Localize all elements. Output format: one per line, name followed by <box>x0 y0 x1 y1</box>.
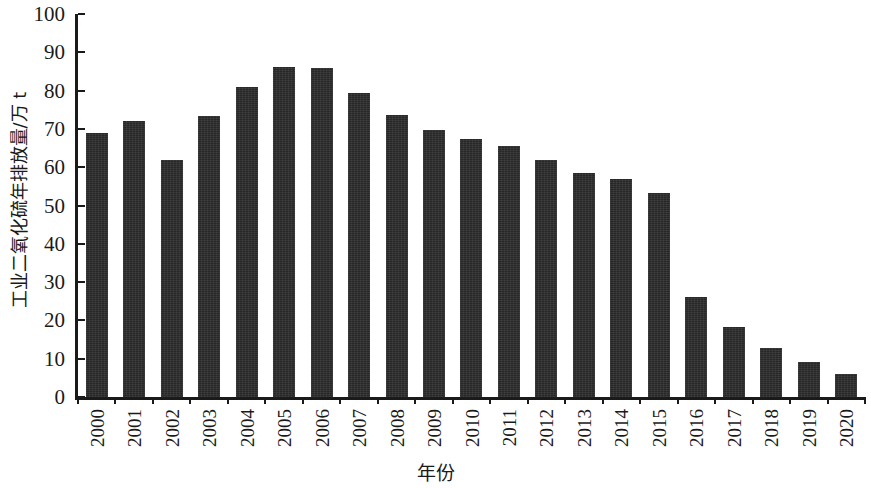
bar[interactable] <box>685 297 707 397</box>
bar[interactable] <box>198 116 220 397</box>
x-axis-tick-label: 2003 <box>200 409 219 447</box>
x-axis-tick <box>302 397 304 404</box>
y-axis-tick-label: 20 <box>44 310 65 331</box>
y-axis-tick-label: 40 <box>44 233 65 254</box>
bar[interactable] <box>798 362 820 397</box>
y-axis-title-label: 工业二氧化硫年排放量/万 t <box>5 92 31 309</box>
y-axis-tick-label: 30 <box>44 272 65 293</box>
bar[interactable] <box>123 121 145 397</box>
x-axis-tick <box>789 397 791 404</box>
y-axis-tick-label: 80 <box>44 80 65 101</box>
bar-slot <box>453 14 490 397</box>
x-axis-tick <box>227 397 229 404</box>
x-axis-tick <box>602 397 604 404</box>
x-axis-tick-label: 2014 <box>612 409 631 447</box>
bar[interactable] <box>498 146 520 397</box>
bar[interactable] <box>835 374 857 397</box>
x-axis-tick <box>264 397 266 404</box>
bar-slot <box>603 14 640 397</box>
x-axis-tick-label: 2019 <box>800 409 819 447</box>
x-axis-tick <box>152 397 154 404</box>
bar-slot <box>190 14 227 397</box>
bar-slot <box>790 14 827 397</box>
x-axis-tick-label: 2013 <box>575 409 594 447</box>
bar[interactable] <box>723 327 745 397</box>
bar-slot <box>565 14 602 397</box>
bar-slot <box>640 14 677 397</box>
x-axis-tick <box>639 397 641 404</box>
x-axis-tick-label: 2009 <box>425 409 444 447</box>
y-axis-tick-label: 90 <box>44 42 65 63</box>
bar-slot <box>828 14 865 397</box>
bar-slot <box>415 14 452 397</box>
x-axis-tick <box>752 397 754 404</box>
x-axis-tick <box>414 397 416 404</box>
x-axis-tick-label: 2000 <box>88 409 107 447</box>
bar-slot <box>78 14 115 397</box>
x-axis-tick-label: 2007 <box>350 409 369 447</box>
y-axis-title: 工业二氧化硫年排放量/万 t <box>2 0 34 400</box>
y-axis-tick-label: 0 <box>55 387 66 408</box>
bar-slot <box>528 14 565 397</box>
x-axis-tick-label: 2001 <box>125 409 144 447</box>
x-axis-tick <box>864 397 866 404</box>
x-axis-tick <box>489 397 491 404</box>
y-axis-tick-label: 50 <box>44 195 65 216</box>
bar[interactable] <box>386 115 408 397</box>
x-axis-tick-label: 2020 <box>837 409 856 447</box>
bar[interactable] <box>460 139 482 397</box>
x-axis-tick-label: 2011 <box>500 409 519 446</box>
plot-area: 0102030405060708090100 20002001200220032… <box>75 14 865 397</box>
y-axis-tick-label: 70 <box>44 118 65 139</box>
x-axis-tick-label: 2015 <box>650 409 669 447</box>
bar[interactable] <box>648 193 670 397</box>
y-axis-tick-label: 10 <box>44 348 65 369</box>
bar-slot <box>153 14 190 397</box>
x-axis-tick-label: 2018 <box>762 409 781 447</box>
x-axis-tick <box>564 397 566 404</box>
x-axis-title-label: 年份 <box>417 462 455 484</box>
x-axis-tick <box>827 397 829 404</box>
x-axis-tick <box>452 397 454 404</box>
bar-slot <box>378 14 415 397</box>
bar[interactable] <box>610 179 632 397</box>
bar-slot <box>340 14 377 397</box>
x-axis-tick <box>714 397 716 404</box>
bar[interactable] <box>86 133 108 397</box>
x-axis-tick <box>377 397 379 404</box>
bar[interactable] <box>236 87 258 397</box>
bar[interactable] <box>760 348 782 397</box>
bar[interactable] <box>423 130 445 397</box>
x-axis-tick <box>189 397 191 404</box>
x-axis-tick-label: 2016 <box>687 409 706 447</box>
x-axis-line <box>75 397 865 400</box>
y-axis-tick-label: 100 <box>34 4 66 25</box>
bar[interactable] <box>535 160 557 397</box>
x-axis-tick <box>77 397 79 404</box>
bar[interactable] <box>161 160 183 397</box>
x-axis-tick-label: 2017 <box>725 409 744 447</box>
bar-slot <box>228 14 265 397</box>
bar-slot <box>265 14 302 397</box>
x-axis-tick-label: 2005 <box>275 409 294 447</box>
x-axis-tick-label: 2010 <box>463 409 482 447</box>
x-axis-tick <box>114 397 116 404</box>
bar[interactable] <box>573 173 595 397</box>
x-axis-tick <box>339 397 341 404</box>
x-axis-tick-label: 2006 <box>313 409 332 447</box>
x-axis-tick <box>677 397 679 404</box>
x-axis-tick-label: 2012 <box>537 409 556 447</box>
bar-slot <box>753 14 790 397</box>
bar[interactable] <box>348 93 370 397</box>
bar-slot <box>678 14 715 397</box>
x-axis-tick-label: 2004 <box>238 409 257 447</box>
x-axis-tick-label: 2002 <box>163 409 182 447</box>
x-axis-title: 年份 <box>0 458 871 485</box>
bar-chart-figure: 工业二氧化硫年排放量/万 t 0102030405060708090100 20… <box>0 0 871 488</box>
bar-slot <box>303 14 340 397</box>
bar-slot <box>715 14 752 397</box>
bar-slot <box>115 14 152 397</box>
x-axis-tick <box>527 397 529 404</box>
bar[interactable] <box>311 68 333 397</box>
bar[interactable] <box>273 67 295 397</box>
